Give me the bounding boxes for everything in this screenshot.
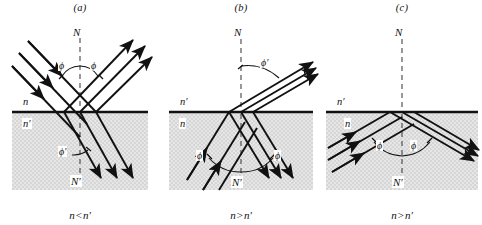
panel-c-caption-right: n′ bbox=[405, 209, 413, 221]
panel-b: (b) bbox=[161, 0, 321, 225]
panel-c-normal-bottom-label: N′ bbox=[392, 176, 404, 188]
panel-b-lower-medium-label: n bbox=[179, 118, 186, 129]
panel-a-lower-medium-label: n′ bbox=[22, 118, 32, 129]
panel-b-caption: n>n′ bbox=[161, 209, 321, 221]
panel-a: (a) bbox=[0, 0, 160, 225]
panel-a-caption-left: n bbox=[69, 209, 75, 221]
panel-c-caption-left: n bbox=[391, 209, 397, 221]
panel-a-upper-medium-label: n bbox=[22, 96, 29, 107]
panel-c: (c) bbox=[322, 0, 482, 225]
panel-c-angle-incident-label: ϕ bbox=[376, 140, 383, 151]
panel-b-caption-right: n′ bbox=[244, 209, 252, 221]
panel-a-caption-op: < bbox=[75, 209, 83, 221]
panel-c-normal-top-label: N bbox=[394, 26, 403, 38]
panel-a-angle-refracted-label: ϕ′ bbox=[58, 146, 67, 157]
panel-a-normal-bottom-label: N′ bbox=[70, 175, 82, 187]
panel-c-caption: n>n′ bbox=[322, 209, 482, 221]
panel-a-caption-right: n′ bbox=[83, 209, 91, 221]
optics-figure: (a) bbox=[0, 0, 482, 225]
reflected-rays bbox=[64, 40, 152, 112]
panel-b-normal-bottom-label: N′ bbox=[231, 176, 243, 188]
panel-b-upper-medium-label: n′ bbox=[179, 96, 189, 107]
panel-b-angle-refracted-label: ϕ′ bbox=[260, 57, 269, 68]
panel-b-angle-reflected-label: ϕ bbox=[274, 150, 281, 161]
panel-a-normal-top-label: N bbox=[72, 26, 81, 38]
panel-b-caption-left: n bbox=[230, 209, 236, 221]
panel-b-normal-top-label: N bbox=[233, 26, 242, 38]
panel-a-caption: n<n′ bbox=[0, 209, 160, 221]
panel-c-angle-reflected-label: ϕ bbox=[410, 140, 417, 151]
panel-a-angle-incident-label: ϕ bbox=[58, 60, 65, 71]
panel-c-caption-op: > bbox=[397, 209, 405, 221]
panel-b-caption-op: > bbox=[236, 209, 244, 221]
panel-a-angle-reflected-label: ϕ bbox=[90, 60, 97, 71]
panel-c-upper-medium-label: n′ bbox=[336, 96, 346, 107]
refracted-rays bbox=[229, 62, 318, 112]
panel-b-angle-incident-label: ϕ bbox=[196, 150, 203, 161]
panel-c-lower-medium-label: n bbox=[344, 118, 351, 129]
